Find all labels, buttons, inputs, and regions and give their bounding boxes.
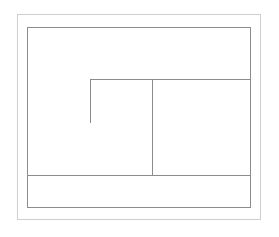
inner-frame [27, 27, 251, 208]
footer-horizontal-divider [27, 175, 250, 176]
center-vertical-divider [152, 79, 153, 175]
l-shape-vertical-line [90, 79, 91, 123]
wireframe-canvas [0, 0, 279, 237]
upper-horizontal-line [90, 79, 250, 80]
